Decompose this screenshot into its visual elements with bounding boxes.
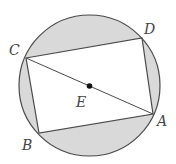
label-C: C	[9, 42, 20, 58]
label-B: B	[21, 137, 32, 153]
center-point-E	[87, 83, 93, 89]
inscribed-rectangle-diagram: A B C D E	[0, 0, 176, 164]
label-A: A	[155, 113, 167, 129]
label-D: D	[143, 21, 155, 37]
label-E: E	[75, 94, 86, 110]
